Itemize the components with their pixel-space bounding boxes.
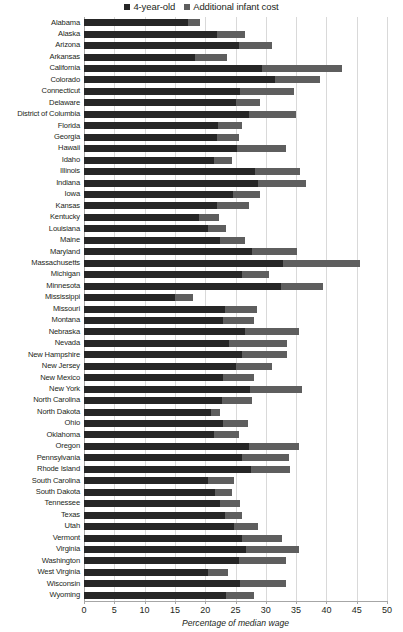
bar-row[interactable] [84, 466, 387, 473]
bar-segment-additional-infant-cost[interactable] [226, 592, 253, 599]
bar-segment-additional-infant-cost[interactable] [195, 54, 227, 61]
bar-segment-4-year-old[interactable] [84, 65, 262, 72]
bar-row[interactable] [84, 420, 387, 427]
bar-row[interactable] [84, 569, 387, 576]
bar-row[interactable] [84, 351, 387, 358]
bar-row[interactable] [84, 260, 387, 267]
bar-segment-additional-infant-cost[interactable] [217, 202, 249, 209]
bar-segment-additional-infant-cost[interactable] [225, 512, 242, 519]
bar-segment-additional-infant-cost[interactable] [234, 523, 258, 530]
bar-segment-additional-infant-cost[interactable] [214, 157, 232, 164]
bar-row[interactable] [84, 386, 387, 393]
bar-segment-additional-infant-cost[interactable] [249, 111, 296, 118]
bar-segment-4-year-old[interactable] [84, 202, 217, 209]
bar-row[interactable] [84, 294, 387, 301]
bar-row[interactable] [84, 19, 387, 26]
bar-segment-4-year-old[interactable] [84, 306, 225, 313]
bar-segment-additional-infant-cost[interactable] [246, 546, 299, 553]
bar-segment-additional-infant-cost[interactable] [175, 294, 193, 301]
bar-row[interactable] [84, 283, 387, 290]
bar-segment-additional-infant-cost[interactable] [242, 351, 287, 358]
bar-row[interactable] [84, 54, 387, 61]
bar-segment-additional-infant-cost[interactable] [208, 477, 233, 484]
bar-segment-additional-infant-cost[interactable] [275, 76, 320, 83]
bar-segment-4-year-old[interactable] [84, 512, 225, 519]
legend-entry-4-year-old[interactable]: 4-year-old [124, 1, 175, 13]
bar-row[interactable] [84, 88, 387, 95]
bar-row[interactable] [84, 168, 387, 175]
bar-row[interactable] [84, 248, 387, 255]
bar-segment-4-year-old[interactable] [84, 134, 217, 141]
bar-segment-4-year-old[interactable] [84, 592, 226, 599]
bar-segment-4-year-old[interactable] [84, 351, 242, 358]
bar-segment-4-year-old[interactable] [84, 54, 195, 61]
bar-segment-additional-infant-cost[interactable] [239, 557, 286, 564]
bar-row[interactable] [84, 122, 387, 129]
bar-segment-additional-infant-cost[interactable] [229, 340, 287, 347]
bar-segment-4-year-old[interactable] [84, 431, 214, 438]
bar-segment-additional-infant-cost[interactable] [211, 409, 220, 416]
bar-segment-additional-infant-cost[interactable] [251, 466, 290, 473]
bar-segment-additional-infant-cost[interactable] [252, 248, 297, 255]
bar-segment-4-year-old[interactable] [84, 374, 223, 381]
bar-segment-additional-infant-cost[interactable] [220, 500, 240, 507]
bar-segment-4-year-old[interactable] [84, 145, 237, 152]
bar-segment-4-year-old[interactable] [84, 260, 283, 267]
bar-row[interactable] [84, 180, 387, 187]
bar-segment-additional-infant-cost[interactable] [242, 454, 289, 461]
bar-segment-4-year-old[interactable] [84, 386, 250, 393]
bar-row[interactable] [84, 363, 387, 370]
bar-segment-4-year-old[interactable] [84, 157, 214, 164]
bar-row[interactable] [84, 374, 387, 381]
bar-segment-additional-infant-cost[interactable] [245, 328, 299, 335]
bar-segment-4-year-old[interactable] [84, 248, 252, 255]
bar-segment-4-year-old[interactable] [84, 489, 215, 496]
bar-segment-4-year-old[interactable] [84, 397, 222, 404]
bar-row[interactable] [84, 111, 387, 118]
bar-segment-4-year-old[interactable] [84, 76, 275, 83]
bar-segment-additional-infant-cost[interactable] [218, 122, 242, 129]
bar-segment-4-year-old[interactable] [84, 409, 211, 416]
bar-segment-additional-infant-cost[interactable] [217, 134, 238, 141]
bar-segment-4-year-old[interactable] [84, 283, 281, 290]
bar-row[interactable] [84, 191, 387, 198]
bar-segment-4-year-old[interactable] [84, 477, 208, 484]
bar-segment-additional-infant-cost[interactable] [239, 42, 273, 49]
bar-segment-4-year-old[interactable] [84, 420, 223, 427]
bar-segment-additional-infant-cost[interactable] [208, 225, 226, 232]
bar-row[interactable] [84, 145, 387, 152]
bar-row[interactable] [84, 500, 387, 507]
bar-segment-4-year-old[interactable] [84, 500, 220, 507]
bar-row[interactable] [84, 592, 387, 599]
bar-segment-additional-infant-cost[interactable] [249, 443, 299, 450]
bar-row[interactable] [84, 523, 387, 530]
bar-segment-4-year-old[interactable] [84, 363, 236, 370]
bar-row[interactable] [84, 237, 387, 244]
bar-row[interactable] [84, 454, 387, 461]
bar-segment-4-year-old[interactable] [84, 535, 242, 542]
bar-row[interactable] [84, 340, 387, 347]
bar-row[interactable] [84, 489, 387, 496]
bar-segment-additional-infant-cost[interactable] [215, 489, 233, 496]
bar-segment-4-year-old[interactable] [84, 225, 208, 232]
bar-row[interactable] [84, 317, 387, 324]
bar-segment-additional-infant-cost[interactable] [237, 145, 285, 152]
bar-segment-4-year-old[interactable] [84, 168, 255, 175]
bar-row[interactable] [84, 431, 387, 438]
bar-row[interactable] [84, 134, 387, 141]
bar-row[interactable] [84, 546, 387, 553]
bar-segment-additional-infant-cost[interactable] [199, 214, 219, 221]
bar-row[interactable] [84, 512, 387, 519]
bar-segment-4-year-old[interactable] [84, 443, 249, 450]
bar-segment-additional-infant-cost[interactable] [283, 260, 360, 267]
bar-segment-4-year-old[interactable] [84, 122, 218, 129]
bar-segment-4-year-old[interactable] [84, 569, 208, 576]
bar-segment-4-year-old[interactable] [84, 237, 220, 244]
bar-segment-additional-infant-cost[interactable] [250, 386, 302, 393]
bar-segment-4-year-old[interactable] [84, 328, 245, 335]
bar-segment-additional-infant-cost[interactable] [217, 31, 245, 38]
bar-row[interactable] [84, 271, 387, 278]
bar-row[interactable] [84, 580, 387, 587]
bar-row[interactable] [84, 42, 387, 49]
bar-segment-4-year-old[interactable] [84, 580, 240, 587]
